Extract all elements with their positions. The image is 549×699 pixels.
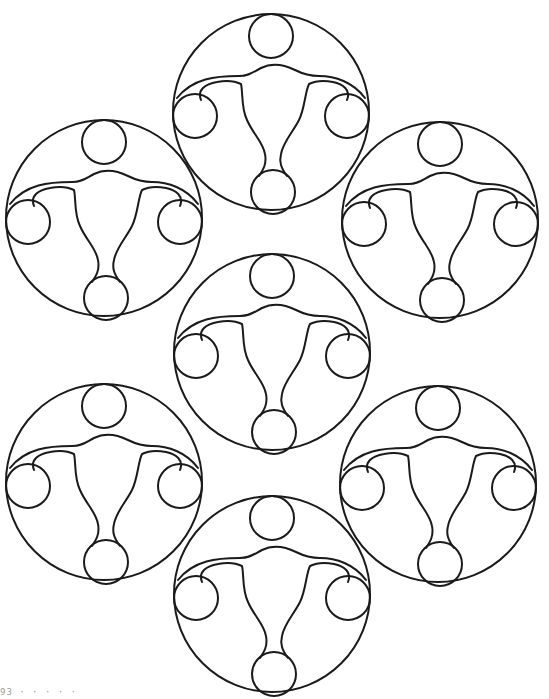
medallion-bottom [174, 496, 370, 696]
medallion-upper-left [6, 120, 202, 320]
medallion-center [174, 254, 370, 454]
medallion-upper-right [342, 122, 538, 322]
medallion-lower-right [340, 386, 536, 586]
medallion-lower-left [6, 384, 202, 584]
page-caption: 93 · · · · · [0, 687, 77, 697]
coloring-page-canvas [0, 0, 549, 699]
medallion-top [173, 14, 369, 214]
medallion-group [6, 14, 538, 696]
